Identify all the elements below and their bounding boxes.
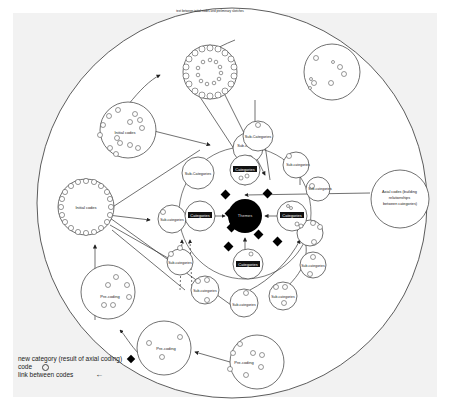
svg-text:Sub-categories: Sub-categories <box>271 295 295 299</box>
legend-item-link: link between codes ← <box>18 371 134 379</box>
svg-text:Sub-Categories: Sub-Categories <box>245 135 271 139</box>
svg-text:Categories: Categories <box>190 213 209 218</box>
svg-text:Sub-categories: Sub-categories <box>160 218 184 222</box>
subcategory-node-2: Sub-Categories <box>182 157 214 189</box>
svg-text:Initial codes: Initial codes <box>75 205 96 210</box>
category-node-left: Categories <box>185 201 215 231</box>
svg-text:Sub-categories: Sub-categories <box>308 187 332 191</box>
svg-text:Pre-coding: Pre-coding <box>234 360 253 365</box>
svg-text:Initial codes: Initial codes <box>114 130 135 135</box>
subcategory-node-11: Sub-categories <box>300 252 326 278</box>
subcategory-node-3: Sub-Categories <box>243 121 273 151</box>
svg-text:Sub-categories: Sub-categories <box>193 289 217 293</box>
svg-text:Sub-categories: Sub-categories <box>301 264 325 268</box>
subcategory-node-8: Sub-categories <box>191 276 219 304</box>
category-node-bottom: Categories <box>233 249 263 279</box>
precoding-node-1: Pre-coding <box>81 265 135 319</box>
svg-text:Categories: Categories <box>282 213 301 218</box>
subcategory-node-9: Sub-categories <box>230 289 258 317</box>
initial-codes-left-node: Initial codes <box>58 178 114 235</box>
coding-diagram: text between initial codes and prelimina… <box>0 0 449 412</box>
svg-text:Sub-Categories: Sub-Categories <box>185 172 211 176</box>
code-ring-node <box>183 45 237 99</box>
legend: new category (result of axial coding) co… <box>18 355 134 379</box>
svg-text:Categories: Categories <box>238 262 257 267</box>
subcategory-node-6: Sub-categories <box>158 205 186 233</box>
legend-item-code: code <box>18 363 134 371</box>
category-node-right: Categories <box>277 201 307 231</box>
subcategory-node-10: Sub-categories <box>269 282 297 310</box>
circle-icon <box>42 364 49 371</box>
top-annotation: text between initial codes and prelimina… <box>176 9 244 13</box>
svg-text:Sub-categories: Sub-categories <box>232 303 256 307</box>
code-cluster-node-top-right <box>304 44 360 100</box>
precoding-node-2: Pre-coding <box>137 321 191 375</box>
arrow-left-icon: ← <box>95 371 103 379</box>
axial-codes-node: Axial codes (building relationships betw… <box>371 170 429 228</box>
svg-text:Sub-categories: Sub-categories <box>168 261 192 265</box>
category-node-top: Categories <box>230 155 260 185</box>
svg-text:Sub-categories: Sub-categories <box>286 163 310 167</box>
svg-text:Categories: Categories <box>235 167 254 172</box>
svg-text:Pre-coding: Pre-coding <box>156 346 175 351</box>
svg-text:Themes: Themes <box>238 213 252 218</box>
svg-text:Pre-coding: Pre-coding <box>100 294 119 299</box>
diamond-icon <box>127 355 135 363</box>
legend-item-new-category: new category (result of axial coding) <box>18 355 134 363</box>
